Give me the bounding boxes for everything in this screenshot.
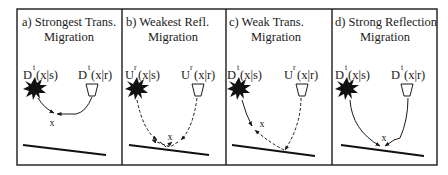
panel-c: c) Weak Trans. Migration D t (x|s) U r (… [227, 15, 318, 156]
reflector [232, 145, 315, 156]
svg-text:U: U [181, 68, 190, 82]
svg-text:(x|s): (x|s) [240, 68, 262, 82]
panel-title-line1: c) Weak Trans. [229, 15, 304, 29]
svg-text:(x|r): (x|r) [91, 68, 112, 82]
wavefront-path-receiver [285, 98, 301, 150]
panel-title-line2: Migration [360, 30, 411, 44]
receiver-label: U r (x|r) [284, 63, 318, 82]
svg-text:D: D [78, 68, 87, 82]
reflected-path [160, 142, 172, 147]
svg-text:r: r [190, 63, 193, 72]
svg-text:(x|s): (x|s) [36, 68, 58, 82]
svg-text:r: r [134, 63, 137, 72]
reflector [23, 145, 106, 155]
panel-title-line2: Migration [148, 30, 199, 44]
svg-text:D: D [23, 68, 32, 82]
receiver-icon [86, 84, 98, 96]
panel-title-line2: Migration [44, 30, 95, 44]
panel-title-line1: a) Strongest Trans. [22, 15, 116, 29]
panel-a: a) Strongest Trans. Migration D t (x|s) … [22, 15, 116, 155]
receiver-icon [401, 84, 413, 96]
receiver-label: D t (x|r) [391, 63, 425, 82]
image-point-label: x [382, 132, 387, 143]
wavefront-path-receiver [57, 97, 92, 114]
svg-text:U: U [284, 68, 293, 82]
wavefront-path-receiver [181, 98, 197, 140]
panel-b: b) Weakest Refl. Migration U r (x|s) U r… [125, 15, 215, 155]
wavefront-path-source [38, 98, 54, 113]
source-label: D t (x|s) [335, 63, 370, 82]
reflector [341, 145, 424, 156]
svg-text:D: D [335, 68, 344, 82]
panel-title-line1: d) Strong Reflection [335, 15, 438, 29]
svg-text:D: D [391, 68, 400, 82]
receiver-label: D t (x|r) [78, 63, 112, 82]
migration-diagram: a) Strongest Trans. Migration D t (x|s) … [0, 0, 448, 175]
image-point-label: x [260, 118, 265, 129]
svg-text:r: r [293, 63, 296, 72]
svg-text:(x|s): (x|s) [138, 68, 160, 82]
panel-title-line2: Migration [251, 30, 302, 44]
svg-text:(x|r): (x|r) [404, 68, 425, 82]
receiver-icon [296, 84, 308, 96]
svg-text:(x|r): (x|r) [194, 68, 215, 82]
wavefront-path-receiver [385, 98, 408, 146]
svg-text:D: D [227, 68, 236, 82]
svg-text:(x|r): (x|r) [297, 68, 318, 82]
panel-title-line1: b) Weakest Refl. [126, 15, 209, 29]
receiver-label: U r (x|r) [181, 63, 215, 82]
source-label: D t (x|s) [227, 63, 262, 82]
image-point-label: x [168, 131, 173, 142]
receiver-icon [192, 84, 204, 96]
wavefront-path-source [350, 100, 380, 146]
reflected-path [255, 130, 284, 150]
image-point-label: x [50, 117, 55, 128]
source-label: D t (x|s) [23, 63, 58, 82]
panel-d: d) Strong Reflection Migration D t (x|s)… [335, 15, 438, 156]
svg-text:U: U [125, 68, 134, 82]
svg-text:(x|s): (x|s) [348, 68, 370, 82]
source-label: U r (x|s) [125, 63, 160, 82]
wavefront-path-source [242, 100, 252, 126]
wavefront-path-source [137, 100, 157, 140]
